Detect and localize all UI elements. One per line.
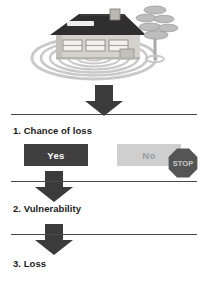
house-roof-icon <box>50 14 146 35</box>
stop-sign-icon: STOP <box>168 148 198 178</box>
step-label-chance-of-loss: 1. Chance of loss <box>13 125 92 136</box>
yes-button[interactable]: Yes <box>24 144 88 166</box>
stop-sign-label: STOP <box>173 159 193 168</box>
step-label-vulnerability: 2. Vulnerability <box>13 203 81 214</box>
separator-rule <box>11 234 197 235</box>
diagram-canvas: 1. Chance of loss Yes No STOP 2. Vulnera… <box>0 0 208 285</box>
house-body-icon <box>56 35 140 60</box>
separator-rule <box>11 181 197 182</box>
step-label-loss: 3. Loss <box>13 258 46 269</box>
chimney-icon <box>110 9 120 20</box>
down-arrow-icon <box>83 85 125 117</box>
down-arrow-icon <box>33 171 75 203</box>
separator-rule <box>11 114 197 115</box>
down-arrow-icon <box>33 224 75 256</box>
house-illustration <box>22 2 186 82</box>
